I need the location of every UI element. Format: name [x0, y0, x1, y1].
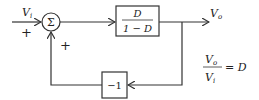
feedback-path-left: [51, 32, 102, 85]
forward-numerator: D: [132, 8, 141, 19]
output-label: Vo: [210, 7, 222, 21]
input-plus-sign: +: [21, 25, 32, 40]
block-diagram: Vi + Σ D 1 − D Vo −1 + Vo Vi = D: [0, 0, 259, 100]
sigma-symbol: Σ: [47, 16, 55, 29]
input-label: Vi: [22, 6, 32, 20]
forward-denominator: 1 − D: [123, 23, 152, 34]
feedback-gain-label: −1: [107, 80, 122, 91]
equation-denominator: Vi: [205, 71, 215, 85]
equation-rhs: = D: [225, 61, 247, 74]
feedback-plus-sign: +: [60, 38, 71, 53]
equation-numerator: Vo: [205, 53, 217, 67]
